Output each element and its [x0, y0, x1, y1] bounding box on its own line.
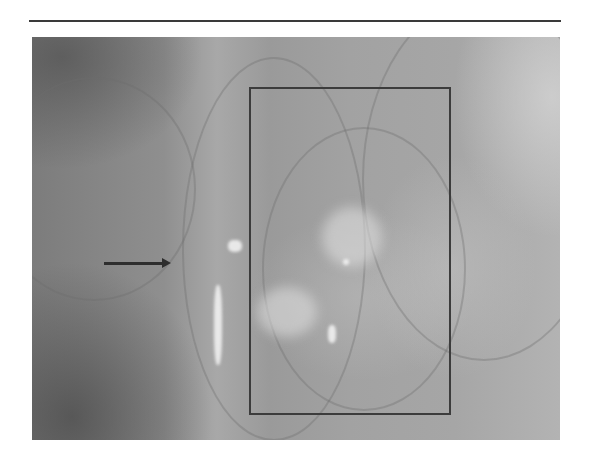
top-rule [29, 20, 561, 22]
specular-highlight [214, 285, 222, 365]
arrow-indicator [104, 262, 164, 265]
arrow-right-icon [162, 258, 171, 268]
tissue-fold [32, 77, 196, 301]
region-of-interest-box [249, 87, 451, 415]
specular-highlight [228, 240, 242, 252]
